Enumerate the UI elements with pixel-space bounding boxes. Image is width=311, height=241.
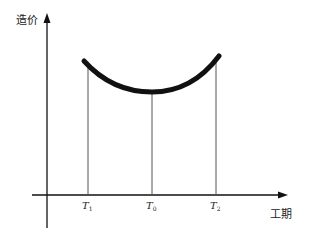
marker-label-t2: T2 xyxy=(210,200,221,212)
cost-curve xyxy=(84,56,219,92)
marker-label-t1: T1 xyxy=(82,200,93,212)
y-axis-arrow-icon xyxy=(44,13,51,23)
x-axis-label: 工期 xyxy=(270,208,292,221)
y-axis-label: 造价 xyxy=(16,13,38,27)
x-axis-arrow-icon xyxy=(278,192,288,199)
cost-duration-diagram: 造价 工期 T1 T0 T2 xyxy=(0,0,311,241)
marker-label-t0: T0 xyxy=(146,200,157,212)
